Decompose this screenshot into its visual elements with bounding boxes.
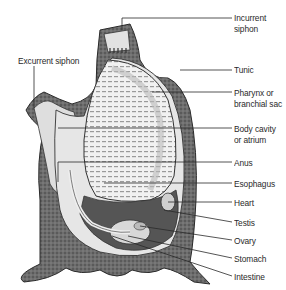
label-pharynx: Pharynx or branchial sac: [234, 87, 282, 109]
label-line: branchial sac: [234, 98, 282, 109]
label-stomach: Stomach: [234, 253, 266, 264]
label-tunic: Tunic: [234, 64, 254, 75]
tunicate-diagram: [0, 0, 286, 290]
label-intestine: Intestine: [234, 271, 265, 282]
label-line: Body cavity: [234, 123, 276, 134]
label-line: Pharynx or: [234, 87, 282, 98]
label-ovary: Ovary: [234, 235, 256, 246]
label-heart: Heart: [234, 197, 254, 208]
label-esophagus: Esophagus: [234, 178, 275, 189]
label-line: siphon: [234, 23, 266, 34]
label-line: Incurrent: [234, 12, 266, 23]
label-testis: Testis: [234, 217, 255, 228]
label-excurrent-siphon: Excurrent siphon: [18, 55, 79, 66]
label-line: or atrium: [234, 134, 276, 145]
label-anus: Anus: [234, 157, 253, 168]
label-body-cavity: Body cavity or atrium: [234, 123, 276, 145]
label-incurrent-siphon: Incurrent siphon: [234, 12, 266, 34]
